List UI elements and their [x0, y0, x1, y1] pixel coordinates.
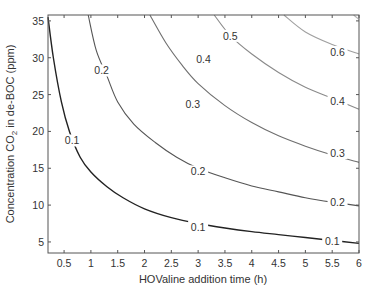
contour-line-0.5 [284, 15, 359, 54]
contour-label: 0.4 [196, 53, 211, 65]
contour-line-0.6 [354, 15, 359, 19]
contour-chart: 0.10.10.10.20.20.20.30.30.40.40.50.6 0.5… [0, 0, 376, 298]
contour-label: 0.3 [185, 98, 200, 110]
y-tick-label: 20 [32, 125, 44, 137]
contour-label: 0.5 [223, 30, 238, 42]
y-tick-label: 10 [32, 199, 44, 211]
x-tick-label: 2.5 [164, 257, 179, 269]
y-tick-label: 30 [32, 52, 44, 64]
contour-label: 0.3 [330, 147, 345, 159]
y-axis-label: Concentration CO2 in de-BOC (ppm) [4, 45, 19, 224]
contour-label: 0.2 [191, 165, 206, 177]
x-tick-label: 1.5 [110, 257, 125, 269]
y-tick-label: 5 [38, 236, 44, 248]
contour-label: 0.1 [65, 134, 80, 146]
contour-line-0.2 [88, 15, 359, 206]
y-tick-label: 35 [32, 15, 44, 27]
x-tick-label: 3.5 [218, 257, 233, 269]
x-tick-label: 4.5 [271, 257, 286, 269]
contour-label: 0.2 [94, 64, 109, 76]
x-tick-label: 2 [142, 257, 148, 269]
x-tick-label: 0.5 [57, 257, 72, 269]
y-tick-label: 25 [32, 89, 44, 101]
contour-label: 0.6 [330, 46, 345, 58]
contour-label: 0.1 [325, 235, 340, 247]
contour-labels: 0.10.10.10.20.20.20.30.30.40.40.50.6 [62, 30, 347, 247]
x-tick-label: 5 [302, 257, 308, 269]
x-tick-label: 5.5 [325, 257, 340, 269]
x-tick-label: 6 [356, 257, 362, 269]
y-tick-label: 15 [32, 162, 44, 174]
x-tick-label: 3 [195, 257, 201, 269]
contour-label: 0.4 [330, 95, 345, 107]
x-tick-label: 1 [88, 257, 94, 269]
contour-label: 0.2 [330, 196, 345, 208]
contour-line-0.1 [48, 17, 359, 243]
plot-frame [48, 15, 359, 253]
contour-lines [48, 15, 359, 243]
contour-label: 0.1 [191, 221, 206, 233]
y-axis-ticks: 5101520253035 [32, 15, 359, 248]
x-tick-label: 4 [249, 257, 255, 269]
x-axis-label: HOValine addition time (h) [139, 273, 267, 285]
contour-line-0.3 [150, 15, 359, 162]
